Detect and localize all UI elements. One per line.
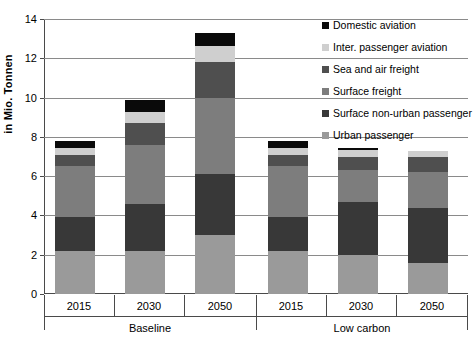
bar-segment <box>55 166 95 217</box>
bar-segment <box>125 145 165 204</box>
bar-segment <box>268 141 308 148</box>
y-axis-tick-label: 6 <box>31 171 37 182</box>
legend-item-label: Sea and air freight <box>333 64 419 75</box>
bar-segment <box>55 141 95 148</box>
bar-segment <box>125 251 165 294</box>
axis-separator <box>114 295 115 316</box>
bar-segment <box>125 112 165 123</box>
bar-segment <box>408 263 448 294</box>
legend-item: Sea and air freight <box>322 58 472 80</box>
bar-segment <box>408 172 448 207</box>
legend-swatch-icon <box>322 110 329 117</box>
legend-item-label: Urban passenger <box>333 130 414 141</box>
bar-segment <box>268 155 308 167</box>
y-axis-tick-label: 4 <box>31 210 37 221</box>
bar-segment <box>338 202 378 255</box>
bar-stack <box>195 33 235 294</box>
axis-separator <box>184 295 185 316</box>
axis-separator <box>396 295 397 316</box>
bar-segment <box>55 217 95 250</box>
legend-swatch-icon <box>322 44 329 51</box>
axis-separator <box>256 295 257 316</box>
y-axis-tick-label: 14 <box>25 14 37 25</box>
x-axis-group-labels: BaselineLow carbon <box>44 317 468 341</box>
bar-segment <box>268 251 308 294</box>
legend-item: Domestic aviation <box>322 14 472 36</box>
bar-segment <box>338 150 378 157</box>
group-separator <box>44 317 45 330</box>
bar-stack <box>55 141 95 294</box>
y-axis-tick-label: 10 <box>25 92 37 103</box>
bar-segment <box>338 157 378 171</box>
bar-segment <box>195 33 235 46</box>
legend-item-label: Inter. passenger aviation <box>333 42 447 53</box>
x-axis-category-label: 2050 <box>184 295 256 317</box>
bar-segment <box>195 174 235 235</box>
chart-legend: Domestic aviationInter. passenger aviati… <box>322 14 472 146</box>
stacked-bar-chart: in Mio. Tonnen 02468101214 2015203020502… <box>0 0 476 350</box>
bar-segment <box>338 255 378 294</box>
group-separator <box>467 317 468 330</box>
legend-item-label: Surface freight <box>333 86 401 97</box>
legend-item: Urban passenger <box>322 124 472 146</box>
bar-stack <box>338 148 378 294</box>
bar-segment <box>408 157 448 173</box>
bar-stack <box>125 100 165 294</box>
bar-segment <box>195 98 235 175</box>
bar-segment <box>268 148 308 155</box>
legend-swatch-icon <box>322 132 329 139</box>
legend-item: Surface non-urban passenger <box>322 102 472 124</box>
x-axis-group-label: Low carbon <box>256 317 468 339</box>
legend-swatch-icon <box>322 88 329 95</box>
group-separator <box>256 317 257 330</box>
axis-separator <box>467 295 468 316</box>
bar-segment <box>408 208 448 263</box>
bar-segment <box>125 123 165 145</box>
x-axis-category-label: 2030 <box>114 295 184 317</box>
y-axis-tick-label: 8 <box>31 131 37 142</box>
legend-item: Inter. passenger aviation <box>322 36 472 58</box>
bar-segment <box>125 204 165 251</box>
bar-segment <box>195 46 235 63</box>
bar-stack <box>408 151 448 294</box>
bar-stack <box>268 141 308 294</box>
y-axis-tick-label: 0 <box>31 289 37 300</box>
legend-swatch-icon <box>322 66 329 73</box>
x-axis-group-label: Baseline <box>44 317 256 339</box>
y-axis-tick-label: 12 <box>25 53 37 64</box>
x-axis-category-labels: 201520302050201520302050 <box>44 295 468 317</box>
legend-item-label: Domestic aviation <box>333 20 416 31</box>
bar-segment <box>125 100 165 113</box>
axis-separator <box>326 295 327 316</box>
bar-segment <box>268 217 308 250</box>
axis-separator <box>44 295 45 316</box>
legend-item: Surface freight <box>322 80 472 102</box>
legend-swatch-icon <box>322 22 329 29</box>
bar-segment <box>55 148 95 155</box>
bar-segment <box>268 166 308 217</box>
y-axis-tick-label: 2 <box>31 249 37 260</box>
bar-segment <box>195 62 235 97</box>
legend-item-label: Surface non-urban passenger <box>333 108 472 119</box>
x-axis-category-label: 2015 <box>256 295 326 317</box>
x-axis-category-label: 2050 <box>396 295 468 317</box>
bar-segment <box>55 251 95 294</box>
bar-segment <box>55 155 95 167</box>
y-axis-title: in Mio. Tonnen <box>2 28 18 160</box>
x-axis-category-label: 2030 <box>326 295 396 317</box>
x-axis-category-label: 2015 <box>44 295 114 317</box>
bar-segment <box>195 235 235 294</box>
bar-segment <box>338 170 378 201</box>
